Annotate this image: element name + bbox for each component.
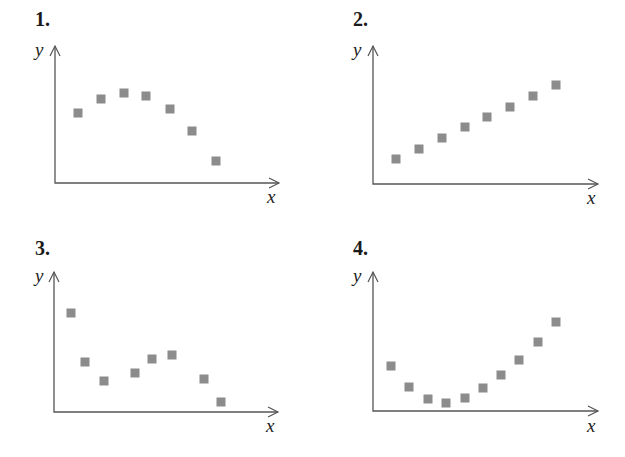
data-point-marker bbox=[387, 362, 396, 371]
data-point-marker bbox=[483, 113, 492, 122]
data-point-marker bbox=[188, 127, 197, 136]
panel-1-plot bbox=[50, 46, 279, 188]
data-point-marker bbox=[97, 95, 106, 104]
data-point-marker bbox=[392, 155, 401, 164]
data-point-marker bbox=[415, 145, 424, 154]
data-point-marker bbox=[217, 398, 226, 407]
data-point-marker bbox=[67, 309, 76, 318]
data-point-marker bbox=[200, 375, 209, 384]
data-point-marker bbox=[479, 384, 488, 393]
data-point-marker bbox=[438, 134, 447, 143]
data-point-marker bbox=[168, 351, 177, 360]
data-point-marker bbox=[461, 394, 470, 403]
data-point-marker bbox=[506, 103, 515, 112]
data-point-marker bbox=[461, 123, 470, 132]
scatter-plots-figure bbox=[0, 0, 625, 457]
data-point-marker bbox=[552, 318, 561, 327]
data-point-marker bbox=[166, 105, 175, 114]
data-point-marker bbox=[515, 356, 524, 365]
data-point-marker bbox=[497, 371, 506, 380]
data-point-marker bbox=[442, 399, 451, 408]
data-point-marker bbox=[120, 89, 129, 98]
data-point-marker bbox=[74, 109, 83, 118]
data-point-marker bbox=[212, 157, 221, 166]
data-point-marker bbox=[424, 395, 433, 404]
data-point-marker bbox=[142, 92, 151, 101]
data-point-marker bbox=[552, 81, 561, 90]
panel-3-plot bbox=[49, 272, 278, 417]
data-point-marker bbox=[405, 383, 414, 392]
panel-2-plot bbox=[368, 46, 598, 189]
panel-4-plot bbox=[368, 272, 598, 416]
data-point-marker bbox=[529, 92, 538, 101]
data-point-marker bbox=[148, 355, 157, 364]
axes-lines bbox=[55, 46, 279, 183]
data-point-marker bbox=[131, 369, 140, 378]
data-point-marker bbox=[534, 338, 543, 347]
data-point-marker bbox=[100, 377, 109, 386]
data-point-marker bbox=[81, 358, 90, 367]
axes-lines bbox=[54, 272, 278, 412]
